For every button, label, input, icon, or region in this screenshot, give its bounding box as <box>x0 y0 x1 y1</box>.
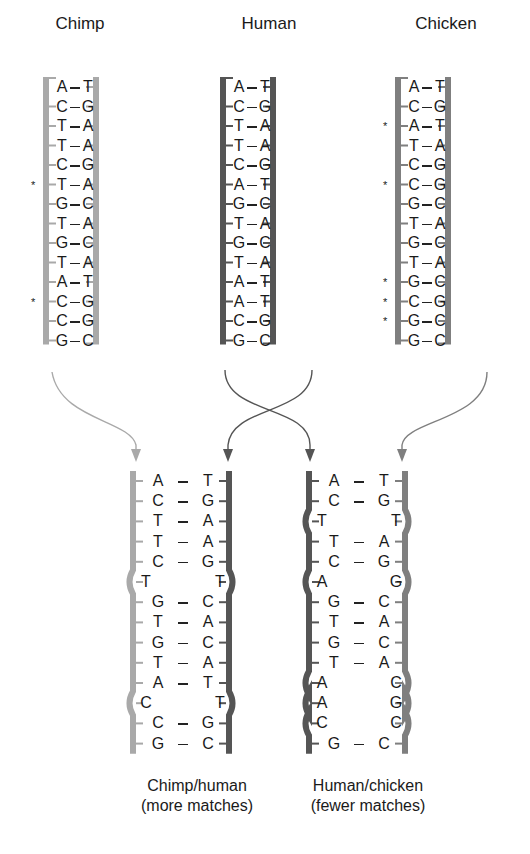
human-chicken-rung-left <box>312 642 319 644</box>
base-left: T <box>55 253 69 272</box>
base-right: T <box>81 272 95 291</box>
base-left: G <box>55 331 69 350</box>
base-right: C <box>433 311 447 330</box>
base-left: G <box>327 633 341 652</box>
base-right: G <box>258 311 272 330</box>
chimp-human-rung-left <box>136 541 143 543</box>
hydrogen-bond <box>354 643 364 645</box>
human-chicken-left-strand <box>306 471 310 754</box>
base-left: A <box>151 673 165 692</box>
base-left: T <box>151 612 165 631</box>
base-right: G <box>81 311 95 330</box>
base-right: C <box>377 592 391 611</box>
base-right: T <box>213 572 227 591</box>
base-left: A <box>407 77 421 96</box>
hydrogen-bond <box>70 302 80 304</box>
chimp-human-rung-right <box>219 743 226 745</box>
chimp-human-rung-right <box>219 520 226 522</box>
chimp-human-rung-right <box>219 480 226 482</box>
base-right: A <box>433 136 447 155</box>
base-left: T <box>55 214 69 233</box>
human-chicken-caption: Human/chicken (fewer matches) <box>283 776 453 816</box>
hydrogen-bond <box>70 224 80 226</box>
difference-marker: * <box>383 315 387 327</box>
hydrogen-bond <box>178 683 188 685</box>
base-left: A <box>55 272 69 291</box>
base-left: A <box>315 673 329 692</box>
hydrogen-bond <box>354 622 364 624</box>
base-left: A <box>232 272 246 291</box>
base-left: T <box>327 612 341 631</box>
base-left: C <box>55 155 69 174</box>
hydrogen-bond <box>247 107 257 109</box>
base-right: A <box>377 612 391 631</box>
chimp-human-caption-title: Chimp/human <box>112 776 282 796</box>
base-left: C <box>407 97 421 116</box>
base-left: C <box>151 713 165 732</box>
base-right: T <box>258 272 272 291</box>
base-left: T <box>232 214 246 233</box>
hydrogen-bond <box>70 204 80 206</box>
human-chicken-rung-right <box>395 621 402 623</box>
base-right: A <box>201 511 215 530</box>
hydrogen-bond <box>70 243 80 245</box>
hydrogen-bond <box>422 302 432 304</box>
hydrogen-bond <box>247 224 257 226</box>
hydrogen-bond <box>354 602 364 604</box>
chimp-human-caption-note: (more matches) <box>112 796 282 816</box>
chimp-left-strand <box>43 77 49 345</box>
base-right: C <box>377 633 391 652</box>
hydrogen-bond <box>422 204 432 206</box>
hydrogen-bond <box>354 663 364 665</box>
base-right: A <box>433 253 447 272</box>
base-left: T <box>151 532 165 551</box>
human-chicken-rung-right <box>395 601 402 603</box>
hydrogen-bond <box>70 107 80 109</box>
hydrogen-bond <box>354 481 364 483</box>
hydrogen-bond <box>70 321 80 323</box>
arrow-chimp-to-hybrid <box>52 372 136 450</box>
base-right: G <box>377 552 391 571</box>
base-left: T <box>407 253 421 272</box>
base-left: G <box>407 331 421 350</box>
hydrogen-bond <box>247 243 257 245</box>
human-chicken-rung-left <box>312 601 319 603</box>
base-right: T <box>258 175 272 194</box>
base-left: A <box>327 471 341 490</box>
base-right: A <box>81 136 95 155</box>
hydrogen-bond <box>422 185 432 187</box>
base-right: A <box>81 116 95 135</box>
base-left: A <box>151 471 165 490</box>
hydrogen-bond <box>247 321 257 323</box>
difference-marker: * <box>383 296 387 308</box>
arrow-chicken-to-hybrid <box>402 372 487 450</box>
base-left: T <box>232 136 246 155</box>
base-right: G <box>433 155 447 174</box>
chimp-human-rung-left <box>136 682 143 684</box>
difference-marker: * <box>31 296 35 308</box>
base-left: A <box>315 572 329 591</box>
base-right: A <box>258 136 272 155</box>
base-right: G <box>389 572 403 591</box>
base-left: C <box>232 97 246 116</box>
base-left: T <box>151 653 165 672</box>
base-right: A <box>258 116 272 135</box>
base-left: C <box>151 491 165 510</box>
hydrogen-bond <box>178 602 188 604</box>
chimp-title: Chimp <box>20 14 140 34</box>
base-right: A <box>258 214 272 233</box>
hydrogen-bond <box>178 501 188 503</box>
hydrogen-bond <box>422 243 432 245</box>
hydrogen-bond <box>422 165 432 167</box>
base-left: C <box>315 713 329 732</box>
hydrogen-bond <box>247 204 257 206</box>
base-left: C <box>407 292 421 311</box>
human-chicken-rung-left <box>312 561 319 563</box>
base-right: T <box>377 471 391 490</box>
base-right: G <box>433 292 447 311</box>
base-right: G <box>258 97 272 116</box>
hydrogen-bond <box>247 341 257 343</box>
base-left: A <box>315 693 329 712</box>
hydrogen-bond <box>247 146 257 148</box>
chimp-human-left-strand <box>130 471 134 754</box>
